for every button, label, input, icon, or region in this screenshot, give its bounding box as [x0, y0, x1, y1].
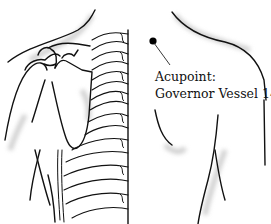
- acupoint-name: Governor Vessel 14: [155, 87, 271, 101]
- shading: [10, 15, 250, 215]
- anatomy-illustration: [0, 0, 271, 224]
- left-arm-outer: [5, 63, 47, 140]
- ribs: [58, 33, 128, 222]
- leader-line: [154, 43, 170, 65]
- left-arm-inner: [32, 80, 45, 122]
- right-scapula-line: [155, 110, 172, 145]
- vertebrae: [120, 33, 124, 203]
- outline: [5, 10, 266, 224]
- left-shoulder-contour: [8, 10, 95, 62]
- right-arm-line: [264, 100, 265, 165]
- left-flank-line-2: [30, 150, 40, 200]
- left-torso-line: [48, 175, 55, 222]
- coracoid: [44, 64, 56, 66]
- scapula-notch: [62, 50, 78, 58]
- acupoint-marker: [149, 37, 156, 44]
- acupoint-label: Acupoint:: [155, 70, 216, 84]
